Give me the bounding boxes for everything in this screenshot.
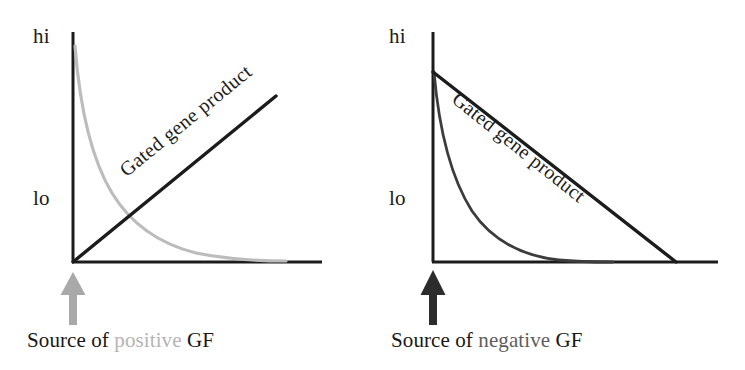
- y-axis-hi-label: hi: [389, 26, 406, 47]
- caption-emphasis: positive: [114, 328, 181, 352]
- caption-emphasis: negative: [478, 328, 550, 352]
- caption-suffix: GF: [182, 328, 214, 352]
- positive-gf-plot: [0, 0, 372, 370]
- source-arrow-up-icon: [61, 272, 86, 325]
- panel-positive-gf: hi lo Gated gene product Source of posit…: [0, 0, 372, 370]
- source-caption: Source of negative GF: [391, 330, 583, 351]
- caption-prefix: Source of: [27, 328, 114, 352]
- figure-root: hi lo Gated gene product Source of posit…: [0, 0, 745, 370]
- source-caption: Source of positive GF: [27, 330, 214, 351]
- y-axis-hi-label: hi: [33, 26, 50, 47]
- caption-suffix: GF: [550, 328, 582, 352]
- y-axis-lo-label: lo: [33, 188, 50, 209]
- source-arrow-up-icon: [421, 270, 446, 325]
- caption-prefix: Source of: [391, 328, 478, 352]
- panel-negative-gf: hi lo Gated gene product Source of negat…: [373, 0, 745, 370]
- y-axis-lo-label: lo: [389, 188, 406, 209]
